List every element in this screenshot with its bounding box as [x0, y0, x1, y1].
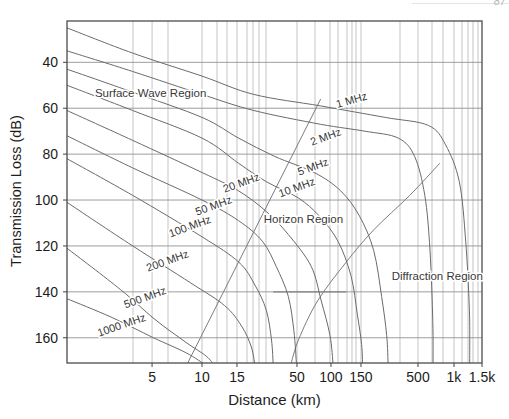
diffraction-boundary-line — [291, 163, 440, 365]
y-tick-label-120: 120 — [35, 238, 59, 254]
plot-border — [67, 21, 482, 363]
x-tick-label-1.5k: 1.5k — [469, 369, 496, 385]
transmission-loss-chart: 51015501001505001k1.5k406080100120140160… — [0, 0, 509, 419]
x-tick-label-1k: 1k — [447, 369, 463, 385]
region-label-surface-wave-region: Surface Wave Region — [95, 87, 206, 99]
y-axis-title: Transmission Loss (dB) — [8, 115, 24, 267]
region-label-horizon-region: Horizon Region — [264, 213, 343, 225]
curve-label-5-mhz: 5 MHz — [296, 155, 330, 177]
y-tick-label-40: 40 — [42, 54, 58, 70]
x-tick-label-50: 50 — [289, 369, 305, 385]
curve-label-2-mhz: 2 MHz — [309, 126, 343, 148]
horizon-boundary-line — [188, 99, 321, 363]
x-tick-label-5: 5 — [148, 369, 156, 385]
region-label-diffraction-region: Diffraction Region — [392, 270, 483, 282]
y-tick-label-160: 160 — [35, 330, 59, 346]
x-tick-label-150: 150 — [349, 369, 373, 385]
curve-1-mhz — [67, 28, 470, 365]
curve-label-1-mhz: 1 MHz — [335, 90, 369, 110]
curve-label-500-mhz: 500 MHz — [122, 284, 167, 310]
x-tick-label-10: 10 — [194, 369, 210, 385]
scanned-chart-page: 87 51015501001505001k1.5k406080100120140… — [0, 0, 509, 419]
curve-500-mhz — [67, 248, 214, 365]
y-tick-label-60: 60 — [42, 100, 58, 116]
curve-label-100-mhz: 100 MHz — [167, 213, 212, 239]
y-tick-label-100: 100 — [35, 192, 59, 208]
y-tick-label-80: 80 — [42, 146, 58, 162]
curve-label-1000-mhz: 1000 MHz — [96, 311, 147, 339]
x-tick-label-100: 100 — [319, 369, 343, 385]
curve-1000-mhz — [67, 299, 206, 366]
y-tick-label-140: 140 — [35, 284, 59, 300]
x-tick-label-15: 15 — [229, 369, 245, 385]
x-axis-title: Distance (km) — [67, 391, 482, 408]
x-tick-label-500: 500 — [406, 369, 430, 385]
y-axis-title-wrap: Transmission Loss (dB) — [2, 2, 30, 380]
curve-label-200-mhz: 200 MHz — [145, 247, 190, 273]
